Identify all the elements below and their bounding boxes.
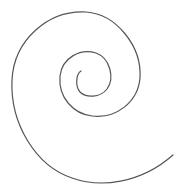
spiral-icon [0,0,182,189]
spiral-diagram [0,0,182,189]
spiral-curve [12,12,173,183]
